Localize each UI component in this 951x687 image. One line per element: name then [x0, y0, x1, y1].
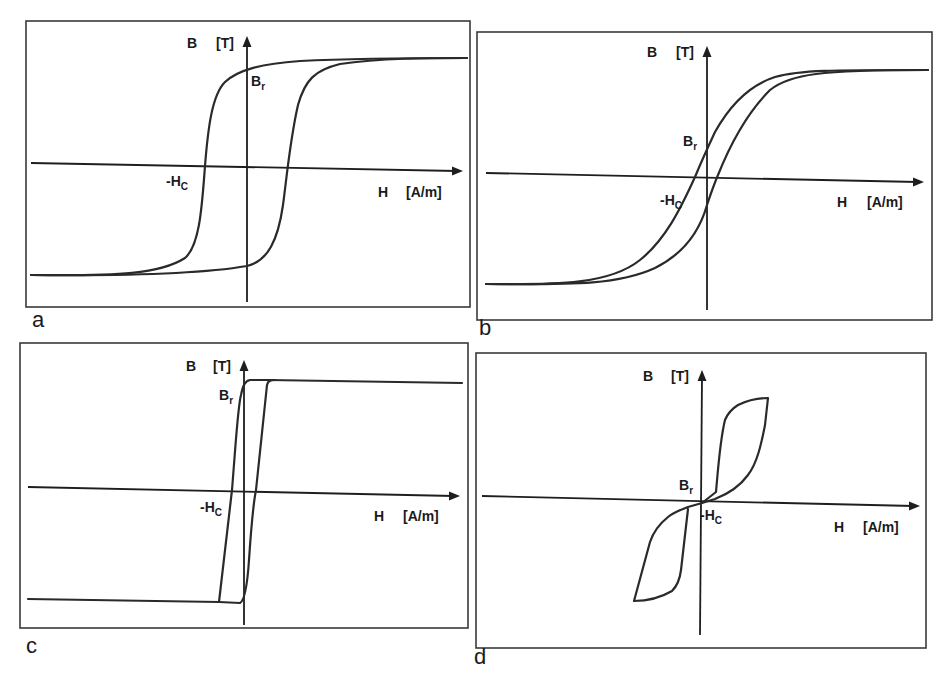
coercivity-label: -HC [200, 499, 222, 518]
arrow-right-icon [909, 502, 920, 511]
panel-letter: a [32, 307, 45, 332]
hysteresis-curve-branch-1 [702, 398, 768, 503]
b-axis-unit: [T] [213, 358, 231, 374]
h-axis [31, 163, 457, 171]
panel-letter: d [474, 644, 486, 669]
h-axis-symbol: H [374, 508, 384, 524]
h-axis-symbol: H [837, 194, 847, 210]
arrow-up-icon [698, 370, 707, 381]
h-axis-symbol: H [378, 184, 388, 200]
remanence-label: Br [679, 477, 693, 496]
panel-letter: b [479, 315, 491, 340]
arrow-right-icon [913, 178, 924, 187]
b-axis-symbol: B [647, 44, 657, 60]
remanence-label: Br [219, 387, 233, 406]
hysteresis-figure: B[T]H[A/m]Br-HCaB[T]H[A/m]Br-HCbB[T]H[A/… [0, 0, 951, 687]
b-axis-symbol: B [186, 358, 196, 374]
remanence-label: Br [683, 133, 697, 152]
arrow-right-icon [449, 492, 460, 501]
h-axis-unit: [A/m] [406, 184, 442, 200]
b-axis-symbol: B [643, 368, 653, 384]
panel-b: B[T]H[A/m]Br-HCb [477, 32, 932, 340]
coercivity-label: -HC [166, 173, 188, 192]
panel-a: B[T]H[A/m]Br-HCa [26, 21, 470, 332]
b-axis-unit: [T] [671, 368, 689, 384]
h-axis-unit: [A/m] [867, 194, 903, 210]
panel-c: B[T]H[A/m]Br-HCc [20, 343, 468, 658]
arrow-right-icon [452, 167, 463, 176]
hysteresis-curve-branch-2 [634, 503, 702, 601]
arrow-up-icon [243, 36, 252, 47]
remanence-label: Br [251, 73, 265, 92]
panel-frame [477, 32, 932, 320]
h-axis [486, 173, 918, 182]
arrow-up-icon [240, 360, 249, 371]
h-axis-symbol: H [834, 519, 844, 535]
panel-letter: c [26, 633, 37, 658]
b-axis-unit: [T] [216, 35, 234, 51]
h-axis-unit: [A/m] [403, 508, 439, 524]
panel-d: B[T]H[A/m]Br-HCd [474, 353, 926, 669]
coercivity-label: -HC [660, 192, 682, 211]
b-axis [700, 376, 702, 635]
h-axis-unit: [A/m] [863, 519, 899, 535]
arrow-up-icon [703, 46, 712, 57]
b-axis-symbol: B [187, 35, 197, 51]
h-axis [28, 487, 454, 496]
b-axis-unit: [T] [676, 44, 694, 60]
coercivity-label: -HC [700, 507, 722, 526]
